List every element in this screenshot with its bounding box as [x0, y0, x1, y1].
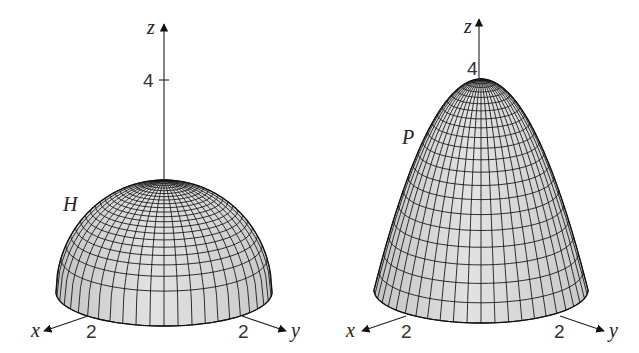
x-axis: [362, 316, 406, 331]
x-tick-label: 2: [86, 321, 97, 342]
y-axis-label: y: [289, 319, 300, 342]
hemisphere-figure: z 4 H x y 2 2: [30, 16, 300, 342]
hemisphere-surface: [56, 180, 272, 326]
paraboloid-figure: z 4 P x y 2 2: [345, 15, 618, 342]
z-axis-label: z: [146, 16, 155, 38]
x-axis-label: x: [30, 319, 40, 341]
y-tick-label: 2: [238, 321, 249, 342]
paraboloid-surface: [374, 79, 588, 323]
y-axis: [242, 316, 286, 331]
y-tick-label: 2: [554, 321, 565, 342]
z-tick-label: 4: [467, 58, 478, 79]
figure-canvas: z 4 H x y 2 2 z 4 P x y 2 2: [0, 0, 639, 353]
surface-label-P: P: [401, 126, 414, 148]
z-tick-label: 4: [143, 70, 154, 91]
z-axis-label: z: [463, 15, 472, 37]
y-axis: [560, 316, 604, 331]
x-tick-label: 2: [401, 321, 412, 342]
surface-label-H: H: [62, 193, 79, 215]
x-axis-label: x: [345, 319, 355, 341]
y-axis-label: y: [607, 319, 618, 342]
x-axis: [44, 316, 88, 331]
